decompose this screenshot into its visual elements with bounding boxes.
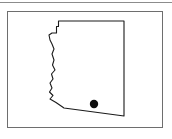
map-figure bbox=[0, 0, 172, 139]
arizona-state-outline bbox=[49, 21, 124, 116]
map-canvas bbox=[0, 0, 172, 139]
city-marker-icon[interactable] bbox=[90, 100, 98, 108]
